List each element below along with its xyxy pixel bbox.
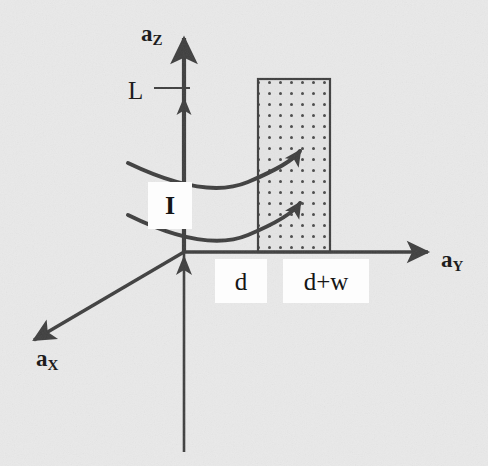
axis-z-label: aZ	[141, 22, 163, 48]
axis-x-label-base: a	[36, 346, 48, 371]
diagram-vector-layer	[0, 0, 488, 466]
axis-z-label-base: a	[141, 21, 153, 46]
axis-x-label: aX	[36, 347, 59, 373]
axis-y-label: aY	[441, 248, 464, 274]
distance-label-d-plus-w: d+w	[283, 259, 369, 303]
figure-canvas: aZ aY aX L I d d+w	[0, 0, 488, 466]
current-label-I: I	[148, 182, 192, 229]
distance-label-d: d	[215, 259, 267, 303]
axis-y-label-sub: Y	[453, 258, 464, 274]
axis-x-label-sub: X	[48, 357, 59, 373]
paper-grain	[0, 0, 488, 466]
axis-z-label-sub: Z	[153, 32, 163, 48]
axis-y-label-base: a	[441, 247, 453, 272]
length-label-L: L	[128, 78, 143, 103]
